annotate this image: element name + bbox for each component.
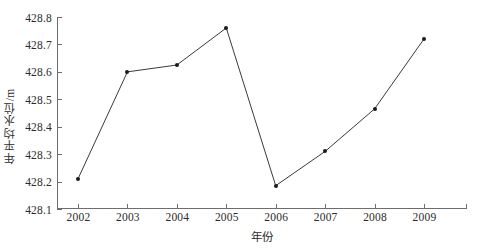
chart-figure: 年平均水位/m 428.1428.2428.3428.4428.5428.642… [0,0,479,251]
y-axis-tick-label: 428.3 [25,149,52,161]
x-axis-tick-label: 2004 [165,211,189,223]
data-point-marker [422,37,426,41]
y-axis-tick-label: 428.8 [25,12,52,24]
y-axis-tick-label: 428.5 [25,94,52,106]
x-axis-tick-label: 2003 [116,211,140,223]
y-axis-tick: 428.1 [57,209,62,210]
data-point-marker [274,184,278,188]
series-polyline [78,28,424,186]
data-point-marker [373,107,377,111]
y-axis-tick-label: 428.6 [25,66,52,78]
x-axis-tick-label: 2002 [67,211,91,223]
data-point-marker [175,63,179,67]
x-axis-tick-label: 2008 [363,211,387,223]
plot-area: 428.1428.2428.3428.4428.5428.6428.7428.8… [57,17,467,209]
series-line [57,17,467,209]
y-axis-title: 年平均水位/m [2,88,18,164]
y-axis-tick-label: 428.1 [25,204,52,216]
y-axis-tick-label: 428.4 [25,121,52,133]
y-axis-tick-label: 428.7 [25,39,52,51]
data-point-marker [76,177,80,181]
x-axis-tick-label: 2006 [264,211,288,223]
y-axis-tick-label: 428.2 [25,176,52,188]
figure-caption [57,245,467,251]
x-axis-title: 年份 [57,228,467,244]
x-axis-tick-label: 2005 [215,211,239,223]
x-axis-tick-label: 2009 [413,211,437,223]
x-axis-tick-label: 2007 [314,211,338,223]
